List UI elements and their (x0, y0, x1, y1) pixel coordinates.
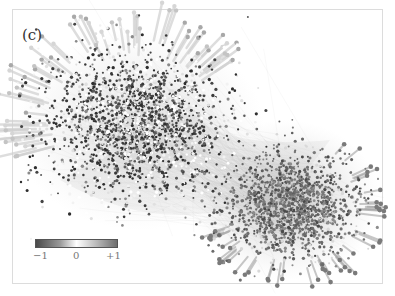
scatter-plot (0, 0, 395, 296)
colorbar-mid-label: 0 (73, 250, 79, 261)
colorbar (35, 239, 118, 248)
panel-label: (c) (22, 26, 42, 44)
colorbar-max-label: +1 (106, 250, 121, 261)
colorbar-min-label: −1 (33, 250, 48, 261)
